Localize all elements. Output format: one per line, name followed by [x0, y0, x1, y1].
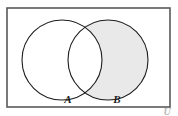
shaded-region-b-minus-a [0, 0, 178, 116]
set-b-label: B [112, 93, 120, 105]
universal-set-label: U [163, 106, 171, 116]
set-a-label: A [63, 93, 71, 105]
venn-diagram-figure: A B U [0, 0, 178, 116]
